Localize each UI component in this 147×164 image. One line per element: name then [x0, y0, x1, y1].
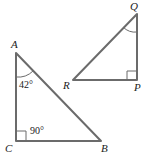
vertex-label-q: Q [130, 0, 138, 12]
angle-label-a: 42° [19, 79, 33, 90]
triangle-abc-outline [16, 53, 101, 141]
right-angle-mark-c [16, 131, 26, 141]
triangles-diagram: A C B 42° 90° Q R P [0, 0, 147, 164]
angle-arc-a [16, 71, 33, 77]
vertex-label-a: A [10, 38, 18, 50]
vertex-label-r: R [62, 79, 70, 91]
angle-label-c: 90° [30, 125, 44, 136]
angle-arc-q [123, 27, 137, 32]
right-angle-mark-p [127, 71, 137, 80]
triangle-pqr-outline [73, 14, 137, 80]
vertex-label-b: B [101, 142, 108, 154]
vertex-label-c: C [5, 142, 13, 154]
triangle-pqr: Q R P [62, 0, 141, 93]
triangle-abc: A C B 42° 90° [5, 38, 108, 154]
vertex-label-p: P [133, 81, 141, 93]
